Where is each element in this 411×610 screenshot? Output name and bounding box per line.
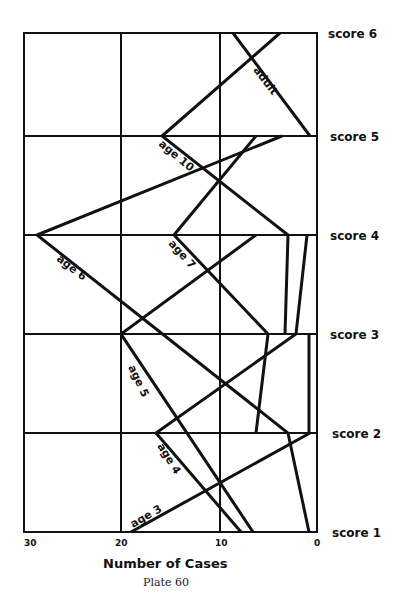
plate-caption: Plate 60 xyxy=(143,576,189,589)
label-age-10: age 10 xyxy=(156,137,197,174)
label-age-5: age 5 xyxy=(125,363,151,400)
line-age-4 xyxy=(156,235,307,532)
tick-10: 10 xyxy=(215,538,228,548)
tick-20: 20 xyxy=(115,538,128,548)
x-axis-title: Number of Cases xyxy=(103,556,228,571)
tick-30: 30 xyxy=(24,538,37,548)
chart-canvas: adult age 10 age 7 age 6 age 5 age 4 age… xyxy=(0,0,411,610)
label-score-3: score 3 xyxy=(330,328,379,342)
y-axis-labels: score 6 score 5 score 4 score 3 score 2 … xyxy=(328,27,381,540)
label-score-6: score 6 xyxy=(328,27,377,41)
label-age-3: age 3 xyxy=(128,502,164,530)
tick-0: 0 xyxy=(314,538,320,548)
series-labels: adult age 10 age 7 age 6 age 5 age 4 age… xyxy=(54,64,280,531)
label-age-6: age 6 xyxy=(54,252,89,284)
label-score-1: score 1 xyxy=(332,526,381,540)
label-adult: adult xyxy=(251,64,281,98)
label-score-2: score 2 xyxy=(332,427,381,441)
label-score-5: score 5 xyxy=(330,130,379,144)
label-score-4: score 4 xyxy=(330,229,379,243)
x-axis-ticks: 30 20 10 0 xyxy=(24,538,320,548)
